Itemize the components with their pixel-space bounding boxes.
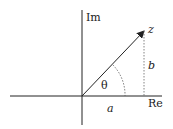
imag-part-b-label: b: [148, 59, 155, 72]
angle-arc: [113, 65, 125, 96]
real-part-a-label: a: [107, 102, 114, 115]
point-z-label: z: [147, 23, 154, 36]
im-axis-label: Im: [86, 11, 101, 24]
vector-z: [82, 31, 144, 96]
complex-plane-diagram: Im Re z θ a b: [0, 0, 173, 129]
re-axis-label: Re: [148, 97, 163, 110]
angle-theta-label: θ: [101, 79, 108, 92]
